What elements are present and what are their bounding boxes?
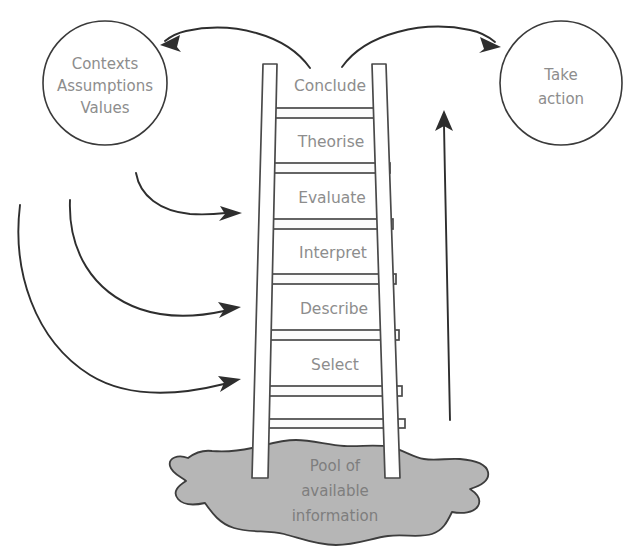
- arrow-inflow-to-evaluate-line: [136, 173, 226, 214]
- diagram-canvas: Pool of available information Concl: [0, 0, 641, 559]
- ladder-right-rail: [372, 64, 400, 478]
- ladder-rung-bar-1: [262, 108, 387, 118]
- contexts-label-line3: Values: [80, 99, 129, 117]
- pool-label-line2: available: [301, 482, 369, 500]
- arrow-conclude-to-take-action-line: [342, 27, 495, 67]
- pool-of-available-information-group: Pool of available information: [170, 440, 489, 545]
- ladder-rung-label-interpret: Interpret: [299, 244, 367, 262]
- ladder-of-inference-diagram: Pool of available information Concl: [0, 0, 641, 559]
- arrow-upward-progression: [435, 110, 453, 420]
- arrow-inflow-to-evaluate: [136, 173, 242, 221]
- ladder-rung-bar-4: [265, 274, 396, 284]
- ladder-rung-bar-2: [263, 163, 390, 173]
- ladder-rung-label-select: Select: [311, 356, 359, 374]
- contexts-label-line2: Assumptions: [57, 77, 153, 95]
- arrow-inflow-to-select-line: [18, 205, 224, 393]
- take-action-label-line2: action: [538, 90, 584, 108]
- arrow-inflow-to-select: [18, 205, 241, 393]
- arrow-conclude-to-take-action: [342, 27, 501, 67]
- take-action-node: Take action: [500, 21, 622, 145]
- arrow-inflow-to-describe: [70, 200, 241, 318]
- arrow-conclude-to-contexts: [160, 28, 310, 68]
- contexts-label-line1: Contexts: [72, 55, 139, 73]
- arrow-inflow-to-describe-line: [70, 200, 224, 316]
- contexts-assumptions-values-node: Contexts Assumptions Values: [43, 21, 167, 145]
- take-action-label-line1: Take: [543, 66, 577, 84]
- arrow-conclude-to-contexts-line: [165, 28, 310, 68]
- arrow-upward-progression-line: [444, 125, 450, 420]
- ladder-rung-bar-5: [266, 330, 399, 340]
- arrow-inflow-to-describe-head: [218, 302, 241, 318]
- ladder-rung-label-describe: Describe: [300, 300, 368, 318]
- ladder-rung-label-theorise: Theorise: [297, 133, 365, 151]
- pool-label-line3: information: [292, 507, 379, 525]
- pool-label-line1: Pool of: [310, 457, 361, 475]
- ladder-group: Conclude Theorise Evaluate Interpret Des…: [252, 64, 405, 478]
- ladder-rung-label-conclude: Conclude: [294, 77, 366, 95]
- ladder-left-rail: [252, 64, 277, 478]
- ladder-rung-label-evaluate: Evaluate: [298, 189, 366, 207]
- ladder-rung-bar-3: [264, 219, 393, 229]
